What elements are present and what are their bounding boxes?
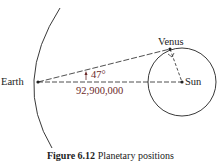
venus-label: Venus [158, 37, 184, 48]
angle-label: 47° [91, 70, 106, 81]
sun-label: Sun [185, 77, 201, 88]
earth-point [36, 80, 39, 83]
angle-arrowhead-icon [85, 71, 88, 75]
figure-number: Figure 6.12 [47, 150, 95, 161]
distance-label: 92,900,000 [76, 86, 123, 97]
earth-label: Earth [1, 77, 24, 88]
figure-title: Planetary positions [98, 150, 174, 161]
venus-sun-line [170, 49, 182, 82]
sun-point [180, 80, 183, 83]
earth-orbit-arc [34, 8, 60, 148]
figure-caption: Figure 6.12 Planetary positions [0, 150, 221, 161]
venus-point [168, 47, 171, 50]
right-angle-marker [168, 53, 174, 57]
